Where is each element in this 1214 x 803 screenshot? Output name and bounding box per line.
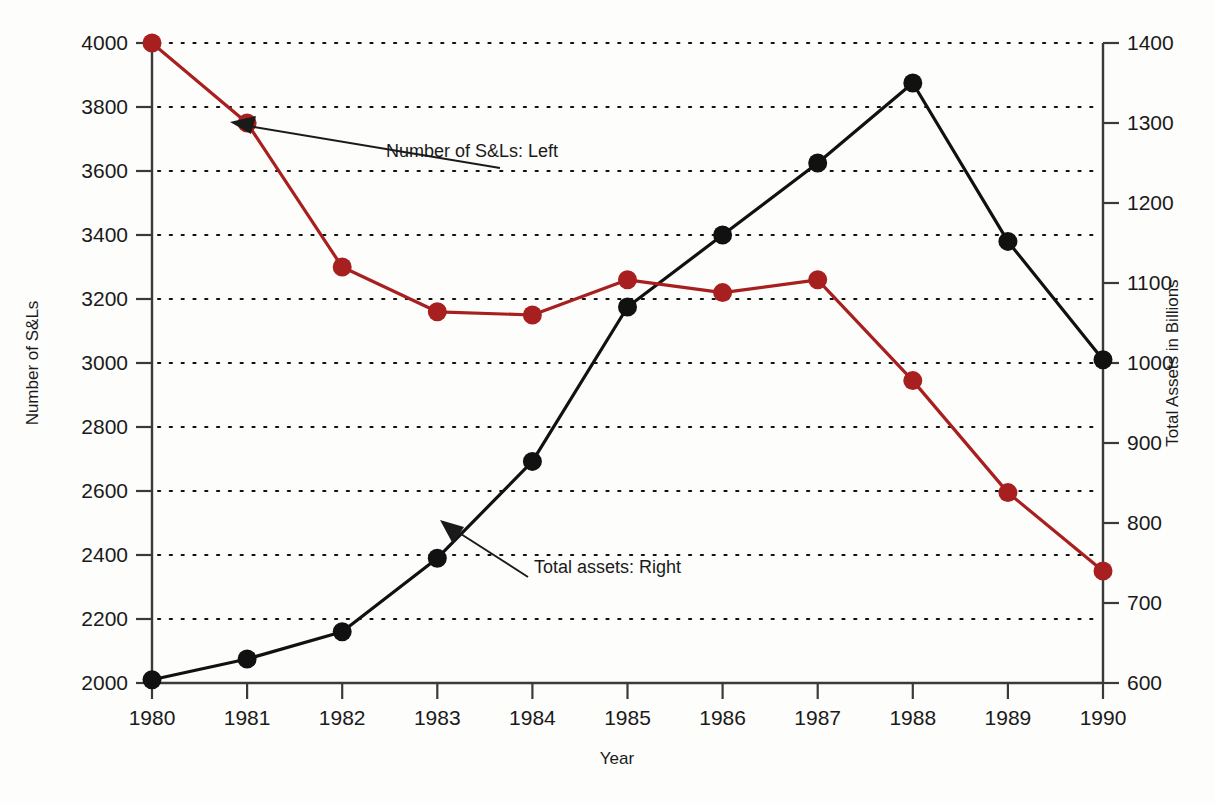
data-point bbox=[523, 306, 542, 325]
data-point bbox=[998, 483, 1017, 502]
data-point bbox=[713, 226, 732, 245]
data-point bbox=[143, 670, 162, 689]
x-tick-label: 1981 bbox=[224, 706, 271, 729]
data-point bbox=[808, 270, 827, 289]
left-tick-label: 2000 bbox=[81, 671, 128, 694]
data-point bbox=[713, 283, 732, 302]
left-tick-label: 3600 bbox=[81, 159, 128, 182]
data-point bbox=[523, 452, 542, 471]
data-point bbox=[618, 298, 637, 317]
x-tick-label: 1989 bbox=[985, 706, 1032, 729]
right-tick-label: 1300 bbox=[1127, 111, 1174, 134]
left-tick-label: 3200 bbox=[81, 287, 128, 310]
left-tick-label: 3400 bbox=[81, 223, 128, 246]
x-tick-label: 1987 bbox=[794, 706, 841, 729]
data-point bbox=[333, 622, 352, 641]
left-tick-label: 2200 bbox=[81, 607, 128, 630]
left-tick-label: 2800 bbox=[81, 415, 128, 438]
x-tick-label: 1985 bbox=[604, 706, 651, 729]
right-tick-label: 1200 bbox=[1127, 191, 1174, 214]
right-tick-label: 900 bbox=[1127, 431, 1162, 454]
chart-canvas: 2000220024002600280030003200340036003800… bbox=[0, 0, 1214, 803]
left-tick-label: 3000 bbox=[81, 351, 128, 374]
left-tick-label: 2400 bbox=[81, 543, 128, 566]
data-point bbox=[903, 371, 922, 390]
data-point bbox=[1094, 562, 1113, 581]
data-point bbox=[903, 74, 922, 93]
x-tick-label: 1984 bbox=[509, 706, 556, 729]
left-tick-label: 2600 bbox=[81, 479, 128, 502]
left-tick-label: 4000 bbox=[81, 31, 128, 54]
x-tick-label: 1990 bbox=[1080, 706, 1127, 729]
x-tick-label: 1980 bbox=[129, 706, 176, 729]
x-tick-label: 1983 bbox=[414, 706, 461, 729]
data-point bbox=[143, 34, 162, 53]
data-point bbox=[808, 154, 827, 173]
x-axis-ticks: 1980198119821983198419851986198719881989… bbox=[129, 683, 1127, 729]
annotation-black-leader bbox=[440, 520, 528, 577]
data-point bbox=[1094, 350, 1113, 369]
right-tick-label: 700 bbox=[1127, 591, 1162, 614]
data-point bbox=[238, 650, 257, 669]
data-point bbox=[428, 549, 447, 568]
x-tick-label: 1982 bbox=[319, 706, 366, 729]
x-tick-label: 1988 bbox=[889, 706, 936, 729]
right-tick-label: 800 bbox=[1127, 511, 1162, 534]
data-point bbox=[333, 258, 352, 277]
x-axis-title: Year bbox=[600, 749, 635, 768]
data-point bbox=[428, 302, 447, 321]
series-line bbox=[152, 83, 1103, 680]
annotation-total-assets-label: Total assets: Right bbox=[534, 557, 681, 577]
left-axis-title: Number of S&Ls bbox=[23, 301, 42, 426]
dual-axis-line-chart: 2000220024002600280030003200340036003800… bbox=[0, 0, 1214, 803]
data-point bbox=[618, 270, 637, 289]
series-total-assets bbox=[143, 74, 1113, 690]
x-tick-label: 1986 bbox=[699, 706, 746, 729]
gridlines-group bbox=[158, 43, 1099, 683]
data-point bbox=[998, 232, 1017, 251]
annotation-number-of-sls-label: Number of S&Ls: Left bbox=[386, 141, 558, 161]
right-tick-label: 1400 bbox=[1127, 31, 1174, 54]
right-tick-label: 600 bbox=[1127, 671, 1162, 694]
right-axis-title: Total Assets in Billions bbox=[1163, 279, 1182, 446]
left-tick-label: 3800 bbox=[81, 95, 128, 118]
left-axis-ticks: 2000220024002600280030003200340036003800… bbox=[81, 31, 152, 694]
